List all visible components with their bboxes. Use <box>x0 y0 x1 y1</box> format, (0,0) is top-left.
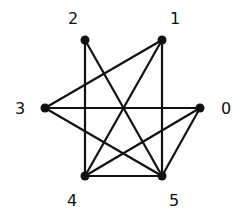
node-0 <box>196 104 205 113</box>
node-1 <box>158 36 167 45</box>
node-5 <box>158 172 167 181</box>
edge-1-3 <box>45 40 162 108</box>
node-label-4: 4 <box>67 191 77 210</box>
node-label-0: 0 <box>221 99 231 118</box>
node-4 <box>81 172 90 181</box>
edges-group <box>45 40 200 176</box>
node-label-1: 1 <box>170 9 180 28</box>
node-2 <box>81 36 90 45</box>
node-label-3: 3 <box>15 99 25 118</box>
node-label-2: 2 <box>68 9 78 28</box>
node-3 <box>41 104 50 113</box>
node-label-5: 5 <box>169 191 179 210</box>
graph-diagram: 012345 <box>0 0 244 216</box>
